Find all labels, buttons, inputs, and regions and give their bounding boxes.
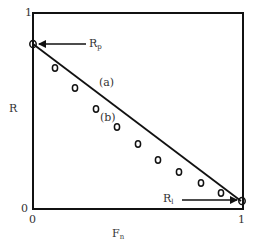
line-a [33, 44, 241, 201]
x-axis-label-sub: n [120, 233, 125, 241]
x-axis-label-main: F [112, 227, 120, 240]
y-tick-0: 0 [21, 203, 28, 214]
data-point [114, 124, 119, 130]
x-axis-label: Fn [112, 228, 124, 241]
x-tick-1: 1 [238, 214, 245, 225]
data-point [155, 157, 160, 163]
data-point [52, 65, 57, 71]
x-tick-0: 0 [29, 214, 36, 225]
data-point [198, 180, 203, 186]
curve-a-label: (a) [99, 77, 114, 88]
rl-label: Rl [163, 193, 174, 206]
data-point [176, 169, 181, 175]
y-axis-label: R [9, 103, 17, 114]
data-point [218, 190, 223, 196]
diagram-canvas [0, 0, 255, 246]
curve-b-label: (b) [100, 112, 116, 123]
rp-label-sub: p [97, 43, 101, 51]
data-point [135, 141, 140, 147]
data-point [72, 85, 77, 91]
y-tick-1: 1 [25, 7, 32, 18]
rp-label: Rp [89, 38, 102, 51]
data-point [93, 106, 98, 112]
rl-label-sub: l [171, 198, 173, 206]
